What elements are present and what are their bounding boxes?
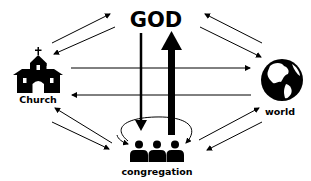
people-icon xyxy=(130,141,184,163)
globe-icon xyxy=(261,59,303,101)
diagram-canvas: GOD Church xyxy=(0,0,311,181)
church-icon xyxy=(13,47,63,93)
congregation-label: congregation xyxy=(121,166,192,177)
world-label: world xyxy=(265,106,295,117)
church-to-god-arrow xyxy=(52,14,110,43)
world-to-congregation-arrow xyxy=(207,122,262,150)
congregation-loop-arrow xyxy=(121,117,192,143)
congregation-to-world-arrow xyxy=(199,108,259,140)
congregation-to-church-arrow xyxy=(55,108,112,143)
church-label: Church xyxy=(19,94,57,105)
world-to-god-arrow xyxy=(205,14,262,43)
god-to-church-arrow xyxy=(54,27,115,54)
god-to-congregation-arrow xyxy=(135,33,147,131)
god-label: GOD xyxy=(130,8,183,32)
god-to-world-arrow xyxy=(200,27,261,57)
